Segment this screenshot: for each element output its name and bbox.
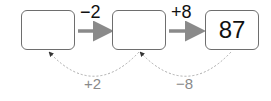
backward-op-1: +2 (84, 75, 101, 92)
backward-arrow-1 (50, 52, 139, 76)
backward-arrow-2 (141, 52, 231, 76)
forward-op-2: +8 (171, 2, 192, 23)
forward-op-1: −2 (80, 2, 101, 23)
backward-op-2: −8 (176, 75, 193, 92)
box-1[interactable] (21, 10, 75, 50)
box-2[interactable] (112, 10, 166, 50)
box-3: 87 (205, 10, 259, 50)
